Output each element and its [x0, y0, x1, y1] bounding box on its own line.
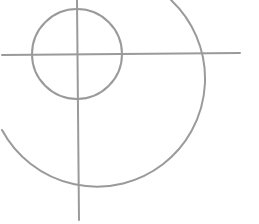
horizontal-crosshair-line [2, 53, 240, 55]
large-arc [2, 0, 205, 187]
crosshair-diagram [0, 0, 259, 224]
vertical-crosshair-line [77, 0, 79, 220]
crosshair-svg [0, 0, 259, 224]
